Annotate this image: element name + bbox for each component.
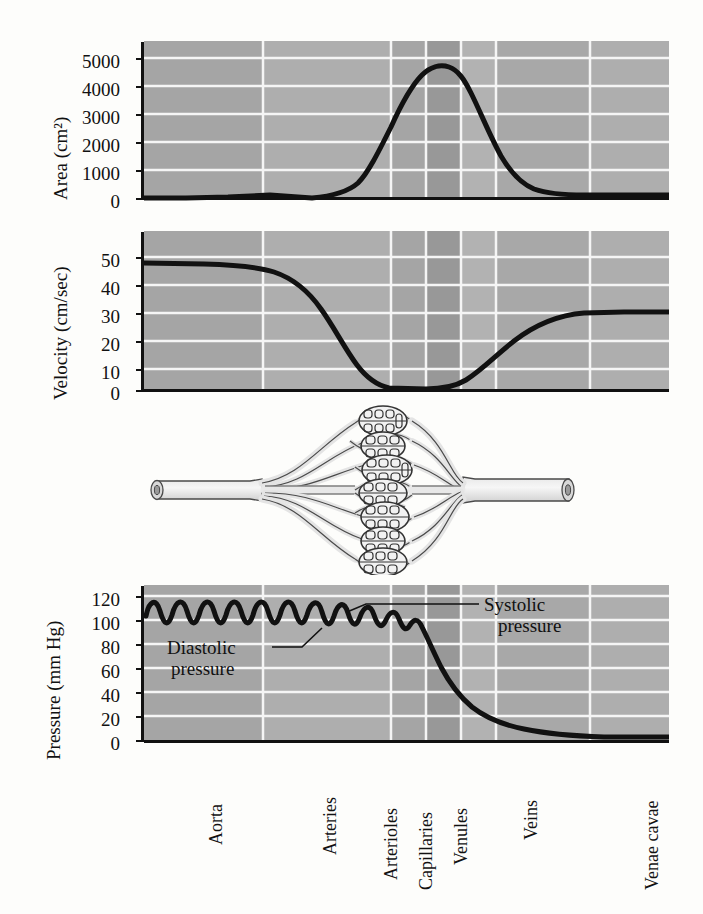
area-plot: [144, 41, 669, 203]
figure-root: Area (cm²) 5000 4000 3000 2000 1000 0: [0, 0, 703, 914]
pressure-panel: Pressure (mm Hg) 120 100 80 60 40 20 0: [0, 578, 703, 758]
artery-trunk: [151, 479, 262, 501]
xcat-arteries: Arteries: [320, 797, 341, 855]
vessel-svg: [150, 405, 575, 575]
venule-branches: [412, 421, 463, 561]
vein-trunk: [463, 477, 574, 503]
xcat-venae-cavae: Venae cavae: [642, 801, 663, 890]
velocity-panel: Velocity (cm/sec) 50 40 30 20 10 0: [0, 222, 703, 402]
capillary-cross-sections: [359, 406, 412, 575]
xcat-capillaries: Capillaries: [416, 812, 437, 890]
xcat-veins: Veins: [521, 800, 542, 840]
xcat-arterioles: Arterioles: [381, 808, 402, 880]
systolic-pressure-annotation: Systolic pressure: [484, 594, 561, 637]
diastolic-pressure-annotation: Diastolic pressure: [167, 637, 236, 680]
vascular-branching-diagram: [150, 405, 575, 575]
area-axis-title: Area (cm²): [50, 117, 72, 200]
area-panel: Area (cm²) 5000 4000 3000 2000 1000 0: [0, 0, 703, 215]
xcat-aorta: Aorta: [206, 804, 227, 845]
xcat-venules: Venules: [451, 808, 472, 865]
arteriole-branches: [262, 423, 365, 559]
velocity-plot: [144, 231, 669, 396]
